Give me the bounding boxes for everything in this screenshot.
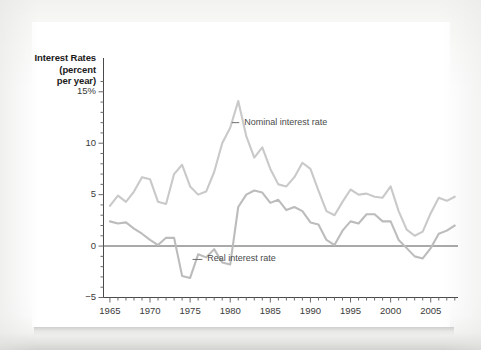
annotation-leader-lines xyxy=(193,123,240,260)
y-axis-minor-ticks xyxy=(101,82,104,288)
x-tick-label: 1990 xyxy=(290,305,330,316)
x-tick-label: 1995 xyxy=(331,305,371,316)
y-tick-label: 5 xyxy=(50,188,96,199)
x-tick-label: 1975 xyxy=(170,305,210,316)
x-tick-label: 1985 xyxy=(250,305,290,316)
x-tick-label: 1970 xyxy=(130,305,170,316)
x-tick-label: 1965 xyxy=(90,305,130,316)
y-axis-title: Interest Rates (percent per year) xyxy=(8,52,96,87)
y-tick-label: 0 xyxy=(50,240,96,251)
x-tick-label: 2000 xyxy=(371,305,411,316)
y-tick-label: 10 xyxy=(50,137,96,148)
y-axis-group xyxy=(99,58,104,298)
y-tick-label: 15% xyxy=(50,85,96,96)
x-tick-label: 1980 xyxy=(210,305,250,316)
nominal-rate-label: Nominal interest rate xyxy=(244,117,327,127)
x-tick-label: 2005 xyxy=(411,305,451,316)
real-rate-label: Real interest rate xyxy=(207,253,276,263)
data-series-group xyxy=(110,101,455,278)
x-axis-group xyxy=(104,298,459,303)
y-tick-label: −5 xyxy=(50,291,96,302)
